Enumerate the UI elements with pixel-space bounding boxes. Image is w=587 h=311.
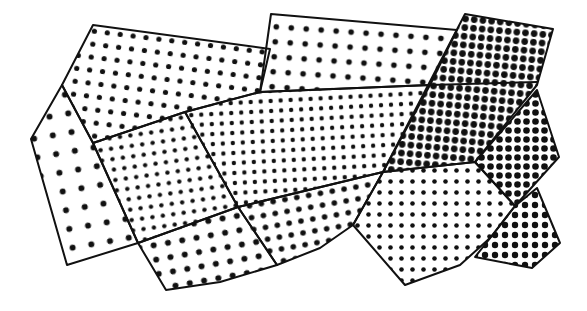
halftone-patch-diagram bbox=[0, 0, 587, 311]
diagram-canvas bbox=[0, 0, 587, 311]
